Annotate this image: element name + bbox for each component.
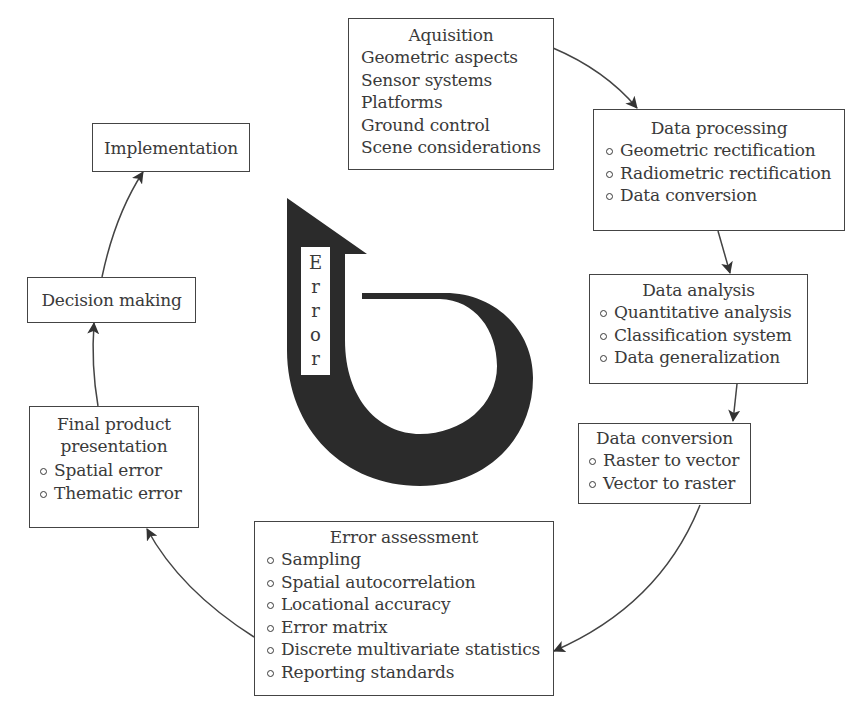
node-error-assessment: Error assessment Sampling Spatial autoco… [254,521,554,696]
arrow-acquisition-to-processing [553,48,637,108]
node-items: Raster to vector Vector to raster [587,449,750,494]
node-title: Data conversion [587,427,750,449]
list-item: Geometric aspects [361,46,553,69]
node-data-analysis: Data analysis Quantitative analysis Clas… [589,274,808,384]
node-acquisition: Aquisition Geometric aspects Sensor syst… [348,18,554,170]
list-item: Error matrix [265,616,553,639]
arrow-final-to-decision [93,323,98,406]
node-items: Sampling Spatial autocorrelation Locatio… [265,548,553,683]
node-data-conversion: Data conversion Raster to vector Vector … [578,423,751,504]
arrow-processing-to-analysis [718,231,730,273]
list-item: Reporting standards [265,661,553,684]
node-title: Data processing [604,117,844,139]
node-items: Spatial error Thematic error [38,459,198,504]
error-letter: o [310,325,321,345]
arrow-analysis-to-conversion [733,384,737,421]
node-title: Implementation [104,137,238,159]
node-final-product-presentation: Final product presentation Spatial error… [29,406,199,528]
error-letter: r [311,277,320,297]
list-item: Discrete multivariate statistics [265,638,553,661]
node-items: Quantitative analysis Classification sys… [598,301,807,369]
arrow-assessment-to-final [147,529,254,637]
list-item: Data generalization [598,346,807,369]
list-item: Sampling [265,548,553,571]
list-item: Quantitative analysis [598,301,807,324]
list-item: Scene considerations [361,136,553,159]
arrow-conversion-to-assessment [554,505,700,651]
error-letter: r [311,301,320,321]
list-item: Vector to raster [587,472,750,495]
node-data-processing: Data processing Geometric rectification … [593,109,845,231]
list-item: Ground control [361,114,553,137]
list-item: Platforms [361,91,553,114]
list-item: Data conversion [604,184,844,207]
node-implementation: Implementation [92,123,250,172]
list-item: Radiometric rectification [604,162,844,185]
list-item: Locational accuracy [265,593,553,616]
node-title-line: Final product [38,413,198,435]
node-items: Geometric rectification Radiometric rect… [604,139,844,207]
arrow-decision-to-implementation [102,172,143,277]
error-letter: E [309,253,322,273]
node-title: Decision making [41,289,181,311]
node-title-line: presentation [38,435,198,457]
error-cycle-diagram: E r r o r Aquisition Geometric aspects S… [0,0,866,715]
list-item: Thematic error [38,482,198,505]
list-item: Sensor systems [361,69,553,92]
node-title: Aquisition [361,24,553,46]
node-decision-making: Decision making [27,277,196,323]
error-label: E r r o r [301,247,330,375]
list-item: Spatial autocorrelation [265,571,553,594]
list-item: Classification system [598,324,807,347]
list-item: Raster to vector [587,449,750,472]
node-title: Data analysis [598,279,807,301]
node-items: Geometric aspects Sensor systems Platfor… [361,46,553,159]
node-title: Error assessment [265,526,553,548]
error-letter: r [311,349,320,369]
list-item: Spatial error [38,459,198,482]
list-item: Geometric rectification [604,139,844,162]
